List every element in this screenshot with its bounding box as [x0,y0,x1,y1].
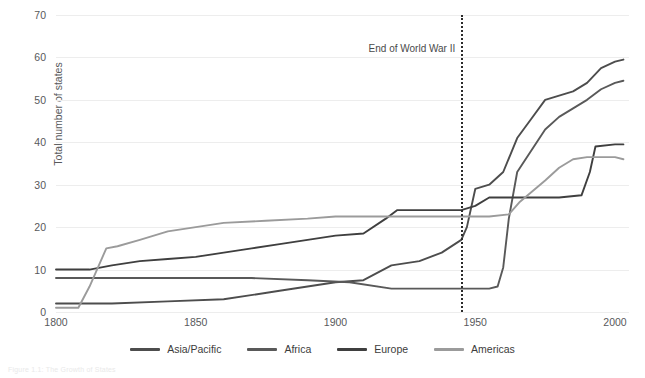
series-line-asia-pacific [56,60,623,304]
series-lines [56,15,629,312]
chart-legend: Asia/PacificAfricaEuropeAmericas [0,340,645,358]
legend-label: Asia/Pacific [167,343,221,355]
y-tick-label-70: 70 [2,10,46,21]
x-tick-label-2000: 2000 [603,316,626,328]
legend-item-africa[interactable]: Africa [247,343,311,355]
y-axis-tick-labels: 010203040506070 [0,15,52,312]
series-line-africa [56,81,623,289]
x-tick-label-1800: 1800 [44,316,67,328]
figure-caption: Figure 1.1: The Growth of States [8,366,508,373]
x-tick-label-1950: 1950 [464,316,487,328]
y-tick-label-30: 30 [2,179,46,190]
series-line-europe [56,144,623,269]
legend-swatch-icon [247,348,277,351]
figure-container: 010203040506070 Total number of states E… [0,0,645,378]
legend-label: Africa [284,343,311,355]
legend-item-americas[interactable]: Americas [434,343,515,355]
legend-swatch-icon [337,348,367,351]
legend-item-asia-pacific[interactable]: Asia/Pacific [130,343,221,355]
y-tick-label-40: 40 [2,137,46,148]
y-tick-label-0: 0 [2,307,46,318]
legend-swatch-icon [434,348,464,351]
x-axis-tick-labels: 18001850190019502000 [56,316,629,332]
y-tick-label-60: 60 [2,52,46,63]
gridline-0 [56,312,629,313]
legend-item-europe[interactable]: Europe [337,343,408,355]
legend-label: Americas [471,343,515,355]
series-line-americas [56,157,623,308]
legend-swatch-icon [130,348,160,351]
plot-area: End of World War II [56,15,629,312]
legend-label: Europe [374,343,408,355]
y-tick-label-20: 20 [2,222,46,233]
wwii-marker-line [461,15,463,312]
y-tick-label-50: 50 [2,95,46,106]
wwii-annotation-label: End of World War II [369,43,456,54]
x-tick-label-1850: 1850 [184,316,207,328]
y-tick-label-10: 10 [2,264,46,275]
x-tick-label-1900: 1900 [324,316,347,328]
